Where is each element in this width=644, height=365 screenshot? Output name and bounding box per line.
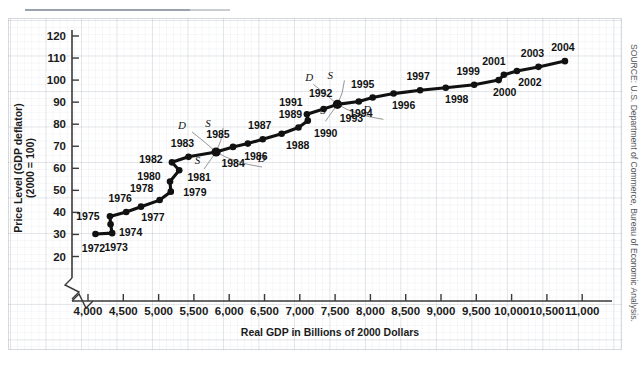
y-axis-tick-label: 40	[53, 206, 66, 218]
x-axis-title: Real GDP in Billions of 2000 Dollars	[241, 326, 420, 338]
figure-root: DSSDDSSD 1972197319741975197619771978197…	[0, 0, 644, 365]
data-point-1981[interactable]	[176, 167, 183, 174]
point-label-2002: 2002	[518, 76, 542, 88]
data-point-2002[interactable]	[514, 68, 521, 75]
x-axis-tick-label: 5,500	[180, 305, 209, 317]
point-label-1996: 1996	[392, 99, 416, 111]
data-point-1999[interactable]	[471, 81, 478, 88]
data-point-1989[interactable]	[295, 124, 302, 131]
point-label-1995: 1995	[351, 78, 375, 90]
data-point-1991[interactable]	[304, 111, 311, 118]
point-label-1978: 1978	[130, 182, 154, 194]
point-label-1980: 1980	[137, 170, 161, 182]
point-label-1974: 1974	[119, 226, 143, 238]
x-axis-tick-label: 6,000	[215, 305, 244, 317]
data-point-1978[interactable]	[156, 197, 163, 204]
point-label-1992: 1992	[309, 87, 333, 99]
data-point-1982[interactable]	[169, 159, 176, 166]
y-axis-tick-label: 80	[53, 118, 66, 130]
point-label-1979: 1979	[183, 186, 207, 198]
point-label-1981: 1981	[188, 171, 212, 183]
data-point-2000[interactable]	[495, 77, 502, 84]
point-labels-group: 1972197319741975197619771978197919801981…	[76, 41, 574, 254]
point-label-1982: 1982	[139, 153, 163, 165]
data-point-1998[interactable]	[442, 85, 449, 92]
point-label-2004: 2004	[551, 41, 575, 53]
point-label-1998: 1998	[445, 93, 469, 105]
data-point-1979[interactable]	[168, 188, 175, 195]
y-axis-tick-label: 90	[53, 96, 66, 108]
x-axis-tick-label: 10,500	[529, 305, 564, 317]
x-axis-tick-label: 4,000	[74, 305, 103, 317]
x-axis-tick-label: 4,500	[109, 305, 138, 317]
point-label-1985: 1985	[206, 128, 230, 140]
point-label-2003: 2003	[521, 47, 545, 59]
x-axis-tick-label: 7,000	[285, 305, 314, 317]
point-label-1999: 1999	[457, 65, 481, 77]
data-point-1976[interactable]	[123, 209, 130, 216]
point-label-1991: 1991	[279, 96, 303, 108]
x-axis-tick-label: 8,000	[356, 305, 385, 317]
data-point-1983[interactable]	[185, 154, 192, 161]
x-axis-tick-label: 8,500	[391, 305, 420, 317]
source-note-text: SOURCE: U.S. Department of Commerce, Bur…	[629, 44, 639, 322]
y-axis-tick-label: 20	[53, 251, 66, 263]
data-point-1990[interactable]	[304, 117, 311, 124]
data-point-1980[interactable]	[167, 178, 174, 185]
data-point-1975[interactable]	[107, 213, 114, 220]
point-label-1997: 1997	[406, 70, 430, 82]
point-label-1983: 1983	[171, 137, 195, 149]
x-axis-tick-label: 5,000	[144, 305, 173, 317]
y-axis-tick-label: 120	[47, 30, 66, 42]
x-axis-tick-label: 10,000	[494, 305, 529, 317]
data-point-1988[interactable]	[278, 130, 285, 137]
y-axis-tick-label: 110	[47, 52, 66, 64]
y-axis-tick-label: 50	[53, 184, 66, 196]
data-point-2003[interactable]	[535, 64, 542, 71]
data-point-1994[interactable]	[356, 98, 363, 105]
data-point-1987[interactable]	[259, 136, 266, 143]
point-label-2000: 2000	[493, 86, 517, 98]
scatter-plot: DSSDDSSD 1972197319741975197619771978197…	[0, 0, 644, 365]
y-axis-tick-label: 60	[53, 162, 66, 174]
point-label-1990: 1990	[314, 127, 338, 139]
data-point-1992[interactable]	[320, 106, 327, 113]
point-label-1984: 1984	[221, 157, 245, 169]
data-point-1972[interactable]	[92, 231, 99, 238]
data-point-2001[interactable]	[501, 72, 508, 79]
point-label-1975: 1975	[76, 210, 100, 222]
x-axis-tick-label: 9,500	[462, 305, 491, 317]
point-label-1986: 1986	[244, 150, 268, 162]
annotation-demand-upper-1993: D	[304, 71, 313, 83]
data-point-1974[interactable]	[107, 221, 114, 228]
point-label-1988: 1988	[286, 139, 310, 151]
data-point-1993[interactable]	[333, 100, 342, 109]
y-axis-title-line2: (2000 = 100)	[24, 138, 36, 198]
data-point-1985[interactable]	[230, 144, 237, 151]
point-label-1987: 1987	[248, 119, 272, 131]
annotation-demand-upper-1984: D	[177, 119, 186, 131]
point-label-1976: 1976	[109, 192, 133, 204]
y-axis-tick-label: 100	[47, 74, 66, 86]
x-axis-tick-label: 7,500	[321, 305, 350, 317]
data-point-1986[interactable]	[245, 140, 252, 147]
data-point-2004[interactable]	[562, 58, 569, 65]
point-label-1977: 1977	[141, 211, 165, 223]
data-point-1977[interactable]	[138, 203, 145, 210]
point-label-2001: 2001	[482, 55, 506, 67]
x-axis-tick-label: 11,000	[565, 305, 600, 317]
data-point-1995[interactable]	[369, 94, 376, 101]
y-axis-tick-label: 70	[53, 140, 66, 152]
y-axis-title-line1: Price Level (GDP deflator)	[12, 103, 24, 232]
y-axis-tick-label: 30	[53, 228, 66, 240]
x-axis-tick-label: 6,500	[250, 305, 279, 317]
data-point-1973[interactable]	[109, 230, 116, 237]
point-label-1973: 1973	[104, 241, 128, 253]
point-label-1989: 1989	[279, 108, 303, 120]
point-label-1994: 1994	[349, 107, 373, 119]
source-note: SOURCE: U.S. Department of Commerce, Bur…	[626, 0, 642, 365]
data-point-1984[interactable]	[211, 147, 220, 156]
data-point-1997[interactable]	[417, 87, 424, 94]
data-point-1996[interactable]	[390, 90, 397, 97]
x-axis-tick-label: 9,000	[427, 305, 456, 317]
